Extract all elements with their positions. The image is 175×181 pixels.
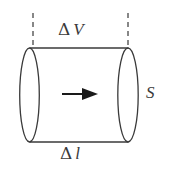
delta-symbol-bottom: Δ [60,143,72,163]
volume-symbol: V [73,20,83,39]
label-delta-v: ΔV [58,21,84,38]
cylinder-right-end-cap [118,48,138,142]
delta-symbol-top: Δ [58,19,70,39]
flow-arrow-head [82,88,98,100]
figure-container: ΔV Δl S [0,0,175,181]
label-area-s: S [146,84,155,101]
cylinder-left-end-cap [20,48,40,142]
label-delta-l: Δl [60,145,80,162]
length-symbol: l [75,144,80,163]
